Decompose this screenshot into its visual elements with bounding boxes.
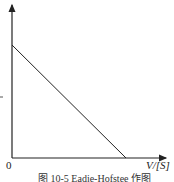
figure-caption: 图 10-5 Eadie-Hofstee 作图 xyxy=(38,174,151,182)
origin-label: 0 xyxy=(6,160,12,171)
data-line xyxy=(12,45,126,158)
x-axis-label: V/[S] xyxy=(146,160,170,171)
chart-plot xyxy=(0,0,174,182)
